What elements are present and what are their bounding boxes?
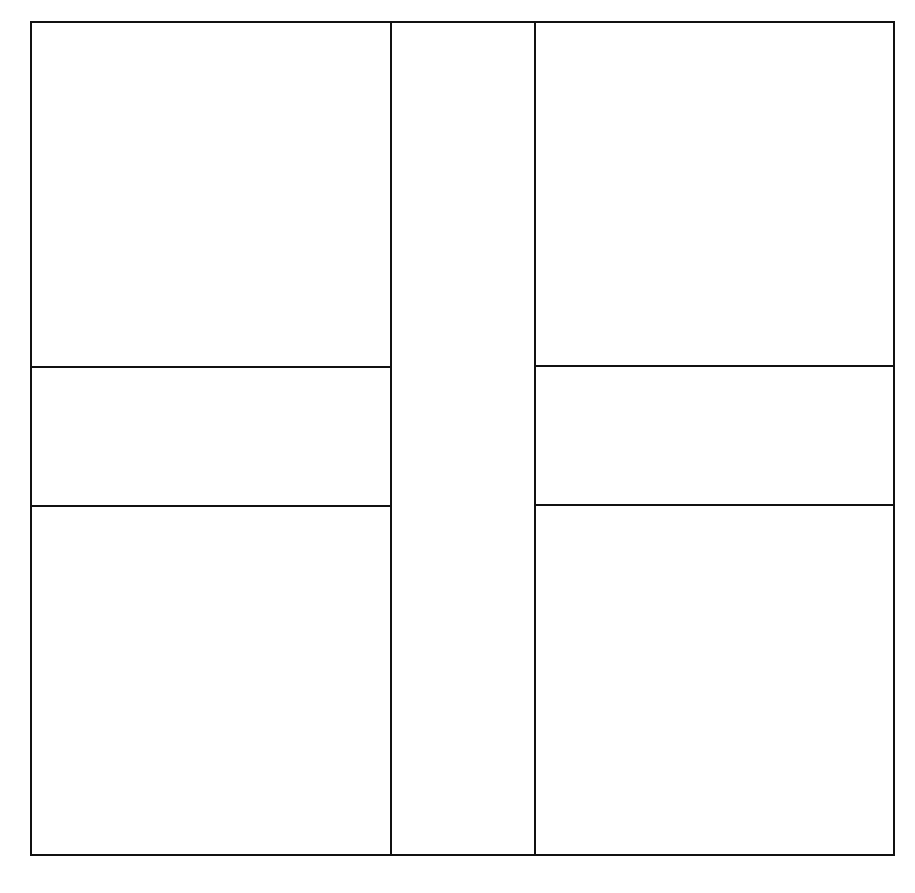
cell-left-bottom [31,506,391,855]
cell-right-bottom [535,505,894,855]
diagram-cells [31,22,894,855]
cell-right-middle [535,366,894,505]
cell-right-top [535,22,894,366]
cell-center-column [391,22,535,855]
cell-left-middle [31,367,391,506]
cell-left-top [31,22,391,367]
grid-diagram [0,0,915,893]
diagram-canvas [0,0,915,893]
